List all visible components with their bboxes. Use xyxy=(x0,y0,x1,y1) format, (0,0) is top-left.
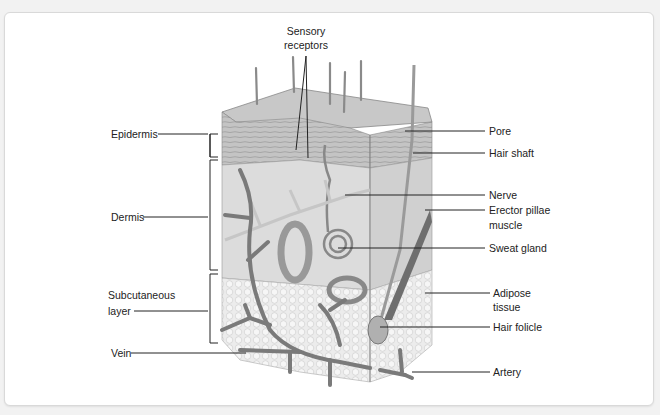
label-erector-2: muscle xyxy=(489,219,522,231)
label-nerve: Nerve xyxy=(489,189,517,201)
label-adipose-1: Adipose xyxy=(493,287,531,299)
label-hair-folicle: Hair folicle xyxy=(493,321,542,333)
skin-block xyxy=(222,57,432,385)
label-artery: Artery xyxy=(493,366,522,378)
label-sweat-gland: Sweat gland xyxy=(489,242,547,254)
label-epidermis: Epidermis xyxy=(111,128,158,140)
label-pore: Pore xyxy=(489,125,511,137)
hair-follicle xyxy=(368,316,388,344)
label-subcutaneous-1: Subcutaneous xyxy=(108,289,175,301)
label-sensory-receptors-2: receptors xyxy=(284,39,328,51)
label-sensory-receptors-1: Sensory xyxy=(287,25,326,37)
dermis-bracket xyxy=(210,160,218,270)
skin-diagram: Sensory receptors Epidermis Dermis Subcu… xyxy=(0,0,660,415)
subcutaneous-layer xyxy=(222,278,370,382)
layer-brackets xyxy=(210,134,218,343)
label-dermis: Dermis xyxy=(111,211,144,223)
dermis-side xyxy=(370,158,432,290)
label-adipose-2: tissue xyxy=(493,301,521,313)
label-subcutaneous-2: layer xyxy=(108,305,131,317)
epidermis-bracket xyxy=(210,134,218,157)
label-vein: Vein xyxy=(111,347,132,359)
subcutaneous-bracket xyxy=(210,274,218,343)
label-erector-1: Erector pillae xyxy=(489,204,550,216)
label-hair-shaft: Hair shaft xyxy=(489,147,534,159)
